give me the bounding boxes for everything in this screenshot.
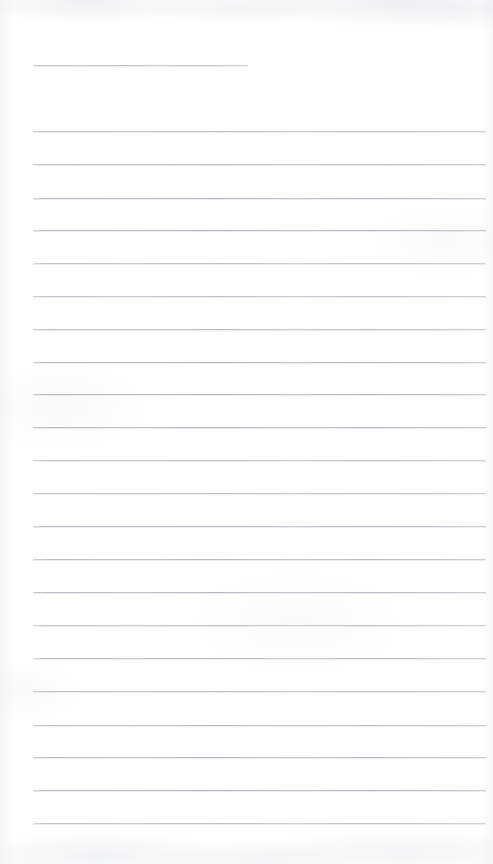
ruled-line: [33, 296, 486, 297]
ruled-line-short: [33, 65, 248, 66]
ruled-line: [33, 559, 486, 560]
ruled-line: [33, 362, 486, 363]
paper-texture-top: [0, 0, 493, 864]
ruled-line: [33, 493, 486, 494]
ruled-line: [33, 691, 486, 692]
ruled-line: [33, 427, 486, 428]
ruled-line: [33, 164, 486, 165]
ruled-line: [33, 198, 486, 199]
ruled-line: [33, 823, 486, 824]
ruled-line: [33, 329, 486, 330]
ruled-line: [33, 625, 486, 626]
ruled-line: [33, 460, 486, 461]
ruled-line: [33, 526, 486, 527]
ruled-line: [33, 757, 486, 758]
ruled-line: [33, 658, 486, 659]
ruled-line: [33, 394, 486, 395]
paper-texture-bottom: [0, 0, 493, 864]
ruled-line: [33, 592, 486, 593]
scanned-page: [0, 0, 493, 864]
ruled-line: [33, 230, 486, 231]
ruled-line: [33, 131, 486, 132]
ruled-line: [33, 725, 486, 726]
ruled-line: [33, 263, 486, 264]
paper-edge-vignette: [0, 0, 493, 864]
paper-texture-mid: [0, 0, 493, 864]
ruled-line: [33, 790, 486, 791]
